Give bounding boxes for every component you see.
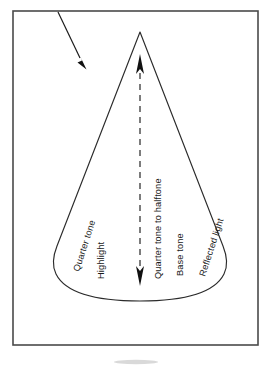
- label-base-tone: Base tone: [175, 233, 185, 276]
- cone-shading-figure: Quarter tone Highlight Quarter tone to h…: [0, 0, 273, 368]
- label-highlight: Highlight: [96, 242, 106, 279]
- figure-frame-border: [13, 11, 258, 345]
- figure-page: Quarter tone Highlight Quarter tone to h…: [0, 0, 273, 368]
- label-quarter-tone-to-halftone: Quarter tone to halftone: [153, 178, 163, 279]
- print-smudge: [114, 360, 158, 364]
